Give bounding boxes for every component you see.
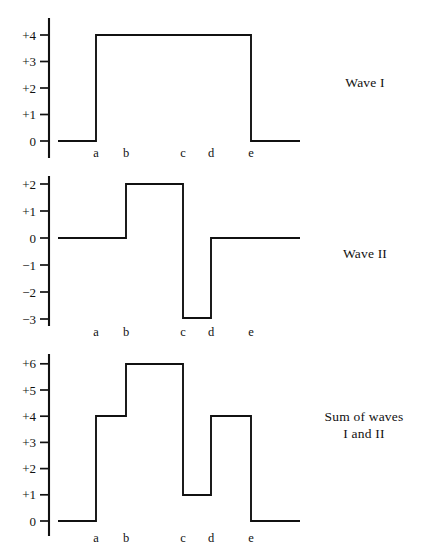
wave-sum-y-tick-label: +2 [22, 461, 36, 476]
wave-sum-x-label-c: c [180, 531, 186, 545]
wave-sum-y-tick-label: +6 [22, 356, 36, 371]
wave-sum-y-tick-label: +1 [22, 487, 36, 502]
wave-2-x-label-a: a [93, 325, 99, 339]
waveform-figure: 0+1+2+3+4 abcde Wave I +2+10−1−2−3 abcde… [0, 0, 423, 557]
wave-1-x-label-c: c [180, 146, 186, 160]
wave-1-trace [58, 35, 300, 141]
wave-2-x-label-d: d [208, 325, 215, 339]
wave-2-x-label-e: e [248, 325, 254, 339]
wave-1-y-tick-label: +4 [22, 28, 36, 43]
wave-sum-x-label-e: e [248, 531, 254, 545]
wave-sum-y-tick-label: 0 [30, 514, 37, 529]
wave-1-x-label-b: b [123, 146, 129, 160]
wave-2-y-tick-label: −3 [22, 312, 36, 327]
panel-wave-1: 0+1+2+3+4 abcde Wave I [0, 0, 423, 170]
wave-2-x-labels: abcde [93, 325, 254, 339]
panel-wave-2: +2+10−1−2−3 abcde Wave II [0, 170, 423, 346]
wave-1-y-tick-label: +3 [22, 54, 36, 69]
wave-sum-x-labels: abcde [93, 531, 254, 545]
wave-sum-side-label: Sum of waves I and II [305, 409, 423, 443]
wave-sum-plot: 0+1+2+3+4+5+6 abcde [0, 346, 423, 557]
wave-1-side-label: Wave I [311, 75, 419, 92]
wave-sum-trace [58, 364, 300, 521]
wave-2-side-label: Wave II [311, 246, 419, 263]
wave-1-y-ticks: 0+1+2+3+4 [22, 28, 48, 149]
wave-sum-y-tick-label: +5 [22, 383, 36, 398]
wave-2-y-tick-label: −1 [22, 258, 36, 273]
wave-2-x-label-c: c [180, 325, 186, 339]
wave-1-x-label-e: e [248, 146, 254, 160]
wave-2-y-ticks: +2+10−1−2−3 [22, 177, 48, 327]
wave-sum-x-label-b: b [123, 531, 129, 545]
wave-1-y-tick-label: +1 [22, 107, 36, 122]
wave-1-y-tick-label: 0 [30, 134, 37, 149]
wave-1-x-label-a: a [93, 146, 99, 160]
wave-sum-y-tick-label: +4 [22, 409, 36, 424]
wave-2-trace [58, 184, 300, 318]
wave-2-y-tick-label: −2 [22, 285, 36, 300]
wave-sum-x-label-a: a [93, 531, 99, 545]
wave-2-y-tick-label: +1 [22, 204, 36, 219]
wave-sum-y-tick-label: +3 [22, 435, 36, 450]
wave-1-y-tick-label: +2 [22, 81, 36, 96]
wave-sum-x-label-d: d [208, 531, 215, 545]
wave-2-y-tick-label: +2 [22, 177, 36, 192]
wave-2-x-label-b: b [123, 325, 129, 339]
panel-wave-sum: 0+1+2+3+4+5+6 abcde Sum of waves I and I… [0, 346, 423, 557]
wave-sum-y-ticks: 0+1+2+3+4+5+6 [22, 356, 48, 528]
wave-1-x-label-d: d [208, 146, 215, 160]
wave-2-y-tick-label: 0 [30, 231, 37, 246]
wave-1-x-labels: abcde [93, 146, 254, 160]
